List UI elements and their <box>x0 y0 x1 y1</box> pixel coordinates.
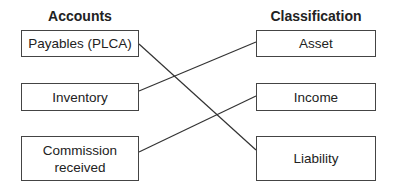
account-box-payables: Payables (PLCA) <box>21 30 139 57</box>
class-label: Income <box>294 89 338 106</box>
account-label: Inventory <box>52 89 108 106</box>
accounts-header: Accounts <box>21 8 139 24</box>
account-label: Commission received <box>42 142 118 176</box>
line-payables-liability <box>139 44 256 150</box>
line-inventory-asset <box>139 42 256 91</box>
classification-header: Classification <box>256 8 376 24</box>
class-box-asset: Asset <box>256 30 376 57</box>
class-label: Liability <box>293 150 338 167</box>
account-box-commission: Commission received <box>21 136 139 181</box>
class-label: Asset <box>299 35 333 52</box>
class-box-liability: Liability <box>256 136 376 181</box>
account-box-inventory: Inventory <box>21 83 139 111</box>
class-box-income: Income <box>256 83 376 111</box>
line-commission-income <box>139 96 256 152</box>
account-label: Payables (PLCA) <box>28 35 132 52</box>
